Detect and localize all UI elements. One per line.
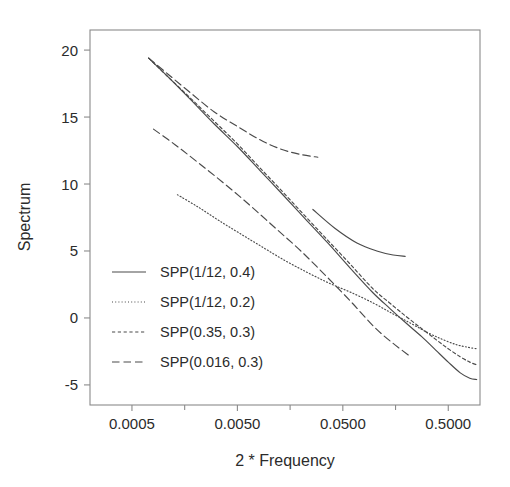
- x-tick-label: 0.0050: [214, 415, 260, 432]
- series-line: [153, 129, 410, 357]
- legend-label-1: SPP(1/12, 0.2): [160, 294, 255, 310]
- y-tick-label: 20: [61, 42, 78, 59]
- plot-frame: [90, 30, 480, 405]
- x-tick-label: 0.0005: [109, 415, 155, 432]
- y-axis-title: Spectrum: [16, 183, 33, 251]
- series-line: [149, 58, 477, 365]
- y-tick-label: -5: [65, 376, 78, 393]
- chart-legend: SPP(1/12, 0.4)SPP(1/12, 0.2)SPP(0.35, 0.…: [112, 264, 263, 370]
- y-tick-label: 0: [70, 309, 78, 326]
- series-line: [313, 209, 405, 256]
- x-axis: 0.00050.00500.05000.5000: [109, 405, 471, 432]
- x-tick-label: 0.5000: [425, 415, 471, 432]
- legend-label-3: SPP(0.016, 0.3): [160, 354, 263, 370]
- y-tick-label: 15: [61, 109, 78, 126]
- legend-label-2: SPP(0.35, 0.3): [160, 324, 255, 340]
- spectrum-chart-svg: -505101520 0.00050.00500.05000.5000 SPP(…: [0, 0, 510, 487]
- spectrum-figure: -505101520 0.00050.00500.05000.5000 SPP(…: [0, 0, 510, 487]
- y-axis: -505101520: [61, 42, 90, 394]
- y-tick-label: 10: [61, 176, 78, 193]
- y-tick-label: 5: [70, 242, 78, 259]
- x-axis-title: 2 * Frequency: [235, 452, 335, 469]
- legend-label-0: SPP(1/12, 0.4): [160, 264, 255, 280]
- x-tick-label: 0.0500: [320, 415, 366, 432]
